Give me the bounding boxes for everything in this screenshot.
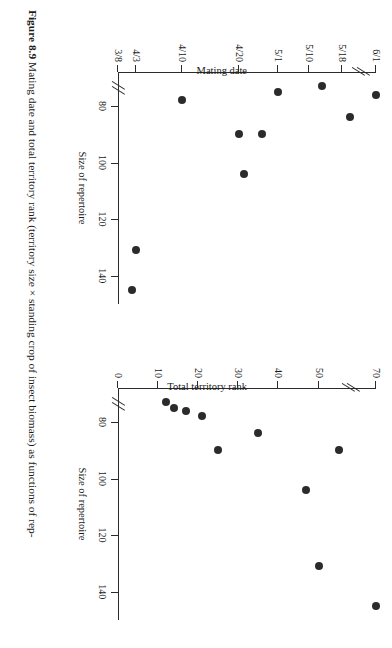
x-tick: [111, 535, 118, 536]
x-tick: [111, 219, 118, 220]
figure-caption-text: Mating date and total territory rank (te…: [27, 62, 39, 538]
y-tick-label: 20: [193, 368, 203, 378]
data-point: [198, 412, 206, 420]
data-point: [170, 404, 178, 412]
x-tick-label: 140: [97, 584, 107, 599]
x-tick-label: 80: [97, 101, 107, 111]
y-axis-title-right: Total territory rank: [167, 381, 247, 392]
x-tick: [111, 163, 118, 164]
x-tick-label: 100: [97, 155, 107, 170]
data-point: [372, 91, 380, 99]
plot-area-left: Mating date Size of repertoire 801001201…: [118, 72, 376, 304]
x-axis-right: [118, 388, 119, 620]
y-tick: [117, 65, 118, 72]
y-tick-label: 4/20: [234, 44, 244, 62]
y-tick-label: 3/8: [113, 49, 123, 62]
y-tick-label: 30: [233, 368, 243, 378]
data-point: [128, 286, 136, 294]
figure-canvas: Mating date Size of repertoire 801001201…: [0, 0, 392, 648]
y-axis-title-left: Mating date: [197, 65, 247, 76]
data-point: [162, 398, 170, 406]
x-tick: [111, 106, 118, 107]
y-tick: [375, 65, 376, 72]
x-tick-label: 120: [97, 212, 107, 227]
y-tick-label: 50: [314, 368, 324, 378]
y-tick-label: 5/10: [304, 44, 314, 62]
y-axis-left: [118, 72, 376, 73]
x-tick-label: 120: [97, 528, 107, 543]
data-point: [315, 562, 323, 570]
y-tick: [117, 381, 118, 388]
y-tick-label: 0: [113, 373, 123, 378]
scatter-plot-territory-rank: Total territory rank Size of repertoire …: [62, 330, 392, 630]
data-point: [182, 407, 190, 415]
figure-caption: Figure 8.9 Mating date and total territo…: [26, 10, 40, 642]
y-tick: [135, 65, 136, 72]
y-tick-label: 6/1: [371, 49, 381, 62]
y-tick-label: 5/1: [273, 49, 283, 62]
data-point: [132, 246, 140, 254]
y-tick-label: 4/3: [131, 49, 141, 62]
data-point: [274, 88, 282, 96]
x-tick: [111, 422, 118, 423]
y-tick-label: 5/18: [337, 44, 347, 62]
y-tick-label: 10: [153, 368, 163, 378]
y-tick: [375, 381, 376, 388]
y-tick-label: 70: [371, 368, 381, 378]
x-tick: [111, 479, 118, 480]
data-point: [254, 429, 262, 437]
plot-area-right: Total territory rank Size of repertoire …: [118, 388, 376, 620]
y-tick: [197, 381, 198, 388]
y-tick-label: 40: [273, 368, 283, 378]
data-point: [346, 113, 354, 121]
data-point: [258, 130, 266, 138]
data-point: [303, 486, 311, 494]
data-point: [179, 96, 187, 104]
y-tick: [277, 381, 278, 388]
y-tick: [308, 65, 309, 72]
y-tick: [277, 65, 278, 72]
data-point: [240, 170, 248, 178]
x-axis-title-left: Size of repertoire: [77, 152, 88, 225]
y-tick: [238, 65, 239, 72]
data-point: [372, 602, 380, 610]
y-tick: [341, 65, 342, 72]
y-tick: [237, 381, 238, 388]
scatter-plot-mating-date: Mating date Size of repertoire 801001201…: [62, 14, 392, 314]
data-point: [335, 446, 343, 454]
x-axis-title-right: Size of repertoire: [77, 468, 88, 541]
data-point: [235, 130, 243, 138]
data-point: [214, 446, 222, 454]
x-axis-left: [118, 72, 119, 304]
y-tick: [157, 381, 158, 388]
x-tick: [111, 592, 118, 593]
x-tick: [111, 276, 118, 277]
x-tick-label: 140: [97, 268, 107, 283]
y-tick: [182, 65, 183, 72]
x-tick-label: 100: [97, 471, 107, 486]
data-point: [318, 82, 326, 90]
y-tick: [318, 381, 319, 388]
x-tick-label: 80: [97, 417, 107, 427]
y-tick-label: 4/10: [178, 44, 188, 62]
figure-number: Figure 8.9: [27, 10, 39, 59]
